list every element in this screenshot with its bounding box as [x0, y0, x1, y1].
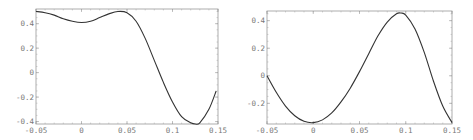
- y-tick-label: -0.4: [16, 117, 35, 126]
- y-tick-label: 0: [260, 71, 265, 80]
- data-curve: [267, 13, 452, 123]
- data-curve: [36, 11, 216, 124]
- plot-frame: [267, 11, 452, 124]
- chart-left-canvas: -0.0500.050.10.150.40.20-0.2-0.4: [0, 0, 236, 140]
- chart-right: -0.0500.050.10.150.40.20-0.2: [236, 0, 473, 140]
- x-tick-label: 0.05: [350, 126, 368, 135]
- x-tick-label: 0.15: [443, 126, 461, 135]
- chart-right-canvas: -0.0500.050.10.150.40.20-0.2: [236, 0, 473, 140]
- y-tick-label: 0.4: [251, 16, 265, 25]
- x-tick-label: 0: [311, 126, 316, 135]
- y-tick-label: 0.2: [251, 44, 265, 53]
- x-tick-label: -0.05: [256, 126, 279, 135]
- x-tick-label: 0.1: [166, 126, 180, 135]
- y-tick-label: 0: [29, 68, 34, 77]
- plot-frame: [36, 9, 218, 124]
- x-tick-label: 0.1: [399, 126, 413, 135]
- x-tick-label: 0.05: [118, 126, 136, 135]
- y-tick-label: -0.2: [247, 99, 265, 108]
- y-tick-label: -0.2: [16, 93, 34, 102]
- y-tick-label: 0.4: [20, 19, 34, 28]
- x-tick-label: 0.15: [209, 126, 227, 135]
- x-tick-label: -0.05: [25, 126, 48, 135]
- x-tick-label: 0: [79, 126, 84, 135]
- chart-left: -0.0500.050.10.150.40.20-0.2-0.4: [0, 0, 236, 140]
- y-tick-label: 0.2: [20, 44, 34, 53]
